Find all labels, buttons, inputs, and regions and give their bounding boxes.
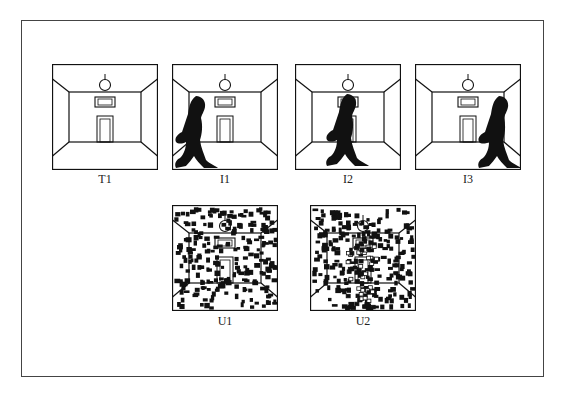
label-u2: U2: [310, 314, 416, 329]
panel-i3: [415, 64, 521, 170]
panel-u1: [172, 205, 278, 311]
panel-i1: [172, 64, 278, 170]
panel-u2: [310, 205, 416, 311]
label-i2: I2: [295, 172, 401, 187]
panel-i2: [295, 64, 401, 170]
label-i1: I1: [172, 172, 278, 187]
label-t1: T1: [52, 172, 158, 187]
label-i3: I3: [415, 172, 521, 187]
panel-t1: [52, 64, 158, 170]
label-u1: U1: [172, 314, 278, 329]
